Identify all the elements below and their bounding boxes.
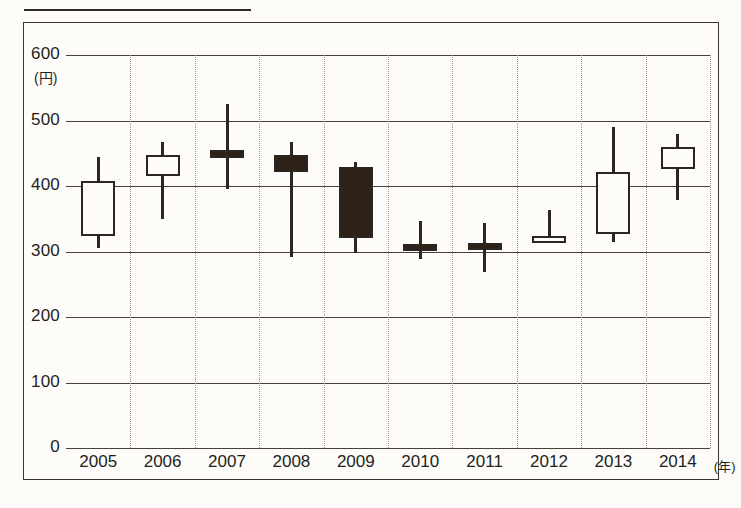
chart-frame: [23, 22, 719, 480]
top-rule-decoration: [24, 9, 251, 11]
figure-canvas: 0100200300400500600(円)200520062007200820…: [0, 0, 741, 508]
